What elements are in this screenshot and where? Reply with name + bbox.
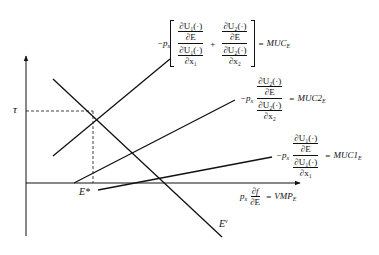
vmp-curve [53, 79, 222, 237]
eq-rhs: VMPE [274, 191, 296, 202]
fraction: ∂f∂E [249, 186, 261, 207]
fraction: ∂U₁(·)∂E ∂U₁(·)∂x₁ [291, 133, 320, 178]
vmp-equation: px ∂f∂E = VMPE [240, 186, 296, 207]
muc-e-curve [53, 59, 170, 156]
eq-prefix: −px [276, 150, 289, 161]
muc-e-equation: −px ∂U₁(·)∂E ∂U₁(·)∂x₁ + ∂U₂(·)∂E ∂U₂(·)… [157, 20, 290, 67]
eq-rhs: MUC2E [297, 93, 325, 104]
eq-prefix: −px [157, 38, 170, 49]
equals-sign: = [325, 151, 330, 161]
term2: ∂U₂(·)∂E ∂U₂(·)∂x₂ [220, 21, 249, 66]
eq-rhs: MUC1E [333, 150, 361, 161]
eq-prefix: −px [240, 93, 253, 104]
e-v-label: Ev [219, 218, 228, 229]
e-star-label: E* [79, 186, 90, 197]
equals-sign: = [266, 192, 271, 202]
muc2-curve [74, 100, 235, 183]
tau-label: τ [13, 103, 17, 115]
bracket: ∂U₁(·)∂E ∂U₁(·)∂x₁ + ∂U₂(·)∂E ∂U₂(·)∂x₂ [170, 20, 255, 67]
eq-prefix: px [240, 191, 247, 202]
muc2-equation: −px ∂U₂(·)∂E ∂U₂(·)∂x₂ = MUC2E [240, 76, 326, 121]
e-v-sup: v [225, 218, 228, 224]
equals-sign: = [258, 39, 263, 49]
muc1-equation: −px ∂U₁(·)∂E ∂U₁(·)∂x₁ = MUC1E [276, 133, 362, 178]
eq-rhs: MUCE [267, 38, 291, 49]
fraction: ∂U₂(·)∂E ∂U₂(·)∂x₂ [255, 76, 284, 121]
plus-sign: + [210, 39, 215, 49]
equals-sign: = [289, 94, 294, 104]
term1: ∂U₁(·)∂E ∂U₁(·)∂x₁ [176, 21, 205, 66]
